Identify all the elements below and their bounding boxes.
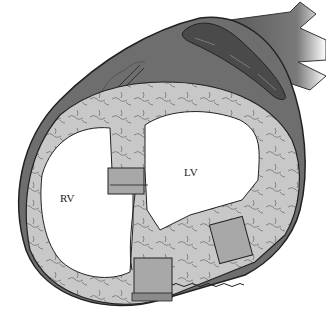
rv-label: RV xyxy=(60,192,74,204)
heart-diagram: RV LV xyxy=(0,0,326,332)
inferior-pledget[interactable] xyxy=(132,258,172,301)
septal-pledget[interactable] xyxy=(108,168,148,194)
lv-label: LV xyxy=(184,166,198,178)
